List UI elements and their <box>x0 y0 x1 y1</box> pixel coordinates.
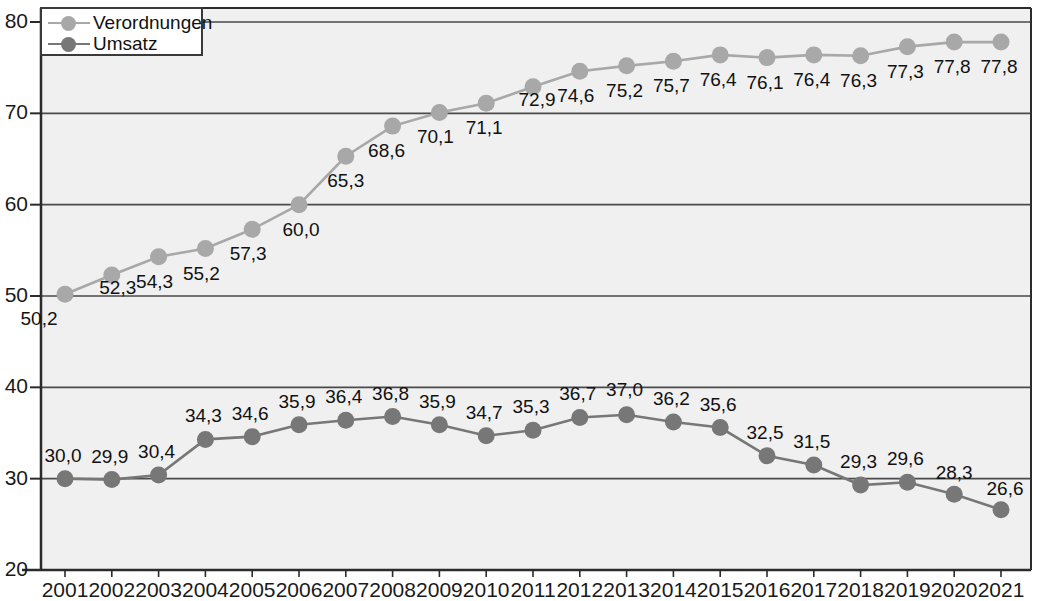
legend-swatch-verordnungen <box>48 14 90 32</box>
data-label-verordnungen: 50,2 <box>11 308 67 330</box>
y-axis-tick-label: 30 <box>0 466 28 490</box>
data-label-umsatz: 31,5 <box>784 431 840 453</box>
y-axis-tick-label: 40 <box>0 374 28 398</box>
data-label-verordnungen: 70,1 <box>407 126 463 148</box>
data-label-verordnungen: 71,1 <box>456 117 512 139</box>
data-label-verordnungen: 65,3 <box>318 170 374 192</box>
data-label-verordnungen: 60,0 <box>273 219 329 241</box>
legend-item-verordnungen: Verordnungen <box>42 12 201 33</box>
data-label-verordnungen: 57,3 <box>220 243 276 265</box>
data-label-umsatz: 28,3 <box>926 462 982 484</box>
data-label-umsatz: 29,6 <box>877 448 933 470</box>
data-label-verordnungen: 77,8 <box>971 56 1027 78</box>
chart-legend: Verordnungen Umsatz <box>40 7 203 56</box>
legend-label-verordnungen: Verordnungen <box>93 13 212 32</box>
y-axis-tick-label: 80 <box>0 9 28 33</box>
data-label-verordnungen: 68,6 <box>359 140 415 162</box>
data-label-verordnungen: 74,6 <box>548 85 604 107</box>
data-label-umsatz: 26,6 <box>977 478 1033 500</box>
legend-label-umsatz: Umsatz <box>93 34 157 53</box>
legend-item-umsatz: Umsatz <box>42 33 201 54</box>
data-label-umsatz: 35,6 <box>690 394 746 416</box>
data-label-umsatz: 30,4 <box>129 441 185 463</box>
legend-swatch-umsatz <box>48 35 90 53</box>
x-axis-tick-label: 2021 <box>971 578 1031 601</box>
y-axis-tick-label: 50 <box>0 283 28 307</box>
y-axis-tick-label: 70 <box>0 100 28 124</box>
y-axis-tick-label: 20 <box>0 557 28 581</box>
y-axis-tick-label: 60 <box>0 192 28 216</box>
data-label-verordnungen: 55,2 <box>173 263 229 285</box>
